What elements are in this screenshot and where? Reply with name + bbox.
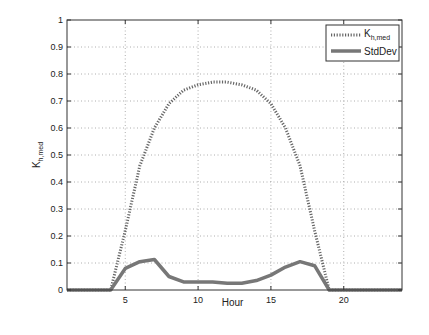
y-tick-label: 1 — [58, 15, 63, 25]
y-tick-label: 0.2 — [50, 231, 63, 241]
y-axis-label: Kh,med — [31, 142, 44, 168]
y-tick-label: 0.9 — [50, 42, 63, 52]
legend-label-stddev: StdDev — [364, 46, 397, 57]
x-tick-label: 15 — [266, 295, 276, 305]
y-tick-label: 0 — [58, 285, 63, 295]
svg-text:Kh,med: Kh,med — [31, 142, 44, 168]
y-tick-label: 0.4 — [50, 177, 63, 187]
x-tick-label: 20 — [339, 295, 349, 305]
y-tick-label: 0.7 — [50, 96, 63, 106]
y-tick-label: 0.6 — [50, 123, 63, 133]
x-tick-label: 5 — [123, 295, 128, 305]
data-series — [67, 82, 402, 290]
y-tick-label: 0.3 — [50, 204, 63, 214]
series-line — [67, 82, 402, 290]
line-chart: 510152000.10.20.30.40.50.60.70.80.91 Hou… — [0, 0, 429, 335]
y-tick-label: 0.8 — [50, 69, 63, 79]
x-axis-label: Hour — [222, 297, 244, 308]
legend: Kh,med StdDev — [326, 25, 399, 61]
x-tick-label: 10 — [193, 295, 203, 305]
y-tick-label: 0.1 — [50, 258, 63, 268]
y-axis-label-sub: h,med — [37, 142, 44, 162]
y-tick-label: 0.5 — [50, 150, 63, 160]
